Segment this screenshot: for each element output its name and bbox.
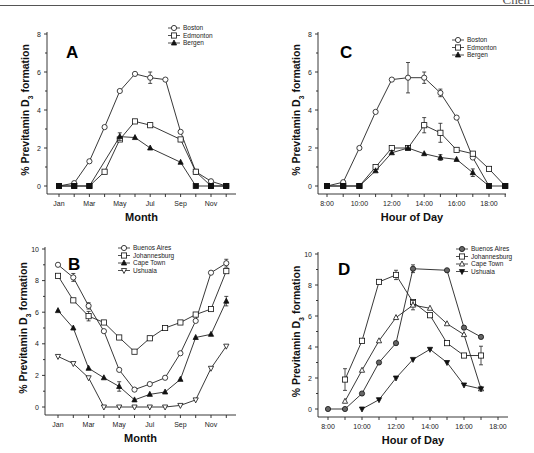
x-tick-label: 10:00	[353, 423, 371, 430]
legend: Buenos AiresJohannesburgCape TownUshuaia	[456, 245, 513, 275]
buenos-aires-marker	[461, 325, 466, 330]
legend-label: Buenos Aires	[471, 245, 510, 252]
y-tick-label: 8	[308, 282, 312, 289]
ushuaia-marker	[359, 407, 364, 412]
legend-item-buenos-aires: Buenos Aires	[456, 245, 510, 252]
x-tick-label: 8:00	[321, 423, 335, 430]
y-tick-label: 4	[308, 344, 312, 351]
legend-item-ushuaia: Ushuaia	[456, 268, 495, 275]
buenos-aires-marker	[478, 334, 483, 339]
johannesburg-marker	[427, 313, 432, 318]
cape-town-marker	[393, 315, 398, 320]
legend-ushuaia-marker	[459, 270, 464, 275]
x-tick-label: 18:00	[489, 423, 507, 430]
buenos-aires-marker	[359, 391, 364, 396]
cape-town-marker	[461, 332, 466, 337]
johannesburg-marker	[393, 272, 398, 277]
series-line	[328, 269, 481, 409]
buenos-aires-marker	[376, 360, 381, 365]
series-cape-town	[342, 301, 483, 404]
legend-label: Ushuaia	[471, 268, 495, 275]
y-tick-label: 10	[304, 251, 312, 258]
y-tick-label: 2	[308, 375, 312, 382]
x-tick-label: 14:00	[421, 423, 439, 430]
johannesburg-marker	[342, 377, 347, 382]
x-axis-title: Hour of Day	[382, 434, 445, 446]
y-tick-label: 6	[308, 313, 312, 320]
panel-letter: D	[338, 260, 350, 279]
legend-cape-town-marker	[459, 261, 464, 266]
buenos-aires-marker	[325, 406, 330, 411]
legend-buenos-aires-marker	[459, 246, 464, 251]
johannesburg-marker	[376, 279, 381, 284]
cape-town-marker	[342, 398, 347, 403]
buenos-aires-marker	[410, 266, 415, 271]
johannesburg-marker	[461, 353, 466, 358]
ushuaia-marker	[427, 347, 432, 352]
johannesburg-marker	[444, 341, 449, 346]
legend-johannesburg-marker	[459, 254, 464, 259]
y-axis-title: % Previtamin D3 formation	[290, 266, 305, 398]
buenos-aires-marker	[342, 406, 347, 411]
johannesburg-marker	[359, 338, 364, 343]
johannesburg-marker	[478, 353, 483, 358]
buenos-aires-marker	[444, 268, 449, 273]
series-buenos-aires	[325, 265, 483, 412]
cape-town-marker	[359, 367, 364, 372]
y-tick-label: 0	[308, 406, 312, 413]
buenos-aires-marker	[393, 341, 398, 346]
x-tick-label: 16:00	[455, 423, 473, 430]
chart-panel-d: 02468108:0010:0012:0014:0016:0018:00Hour…	[0, 0, 534, 453]
x-tick-label: 12:00	[387, 423, 405, 430]
